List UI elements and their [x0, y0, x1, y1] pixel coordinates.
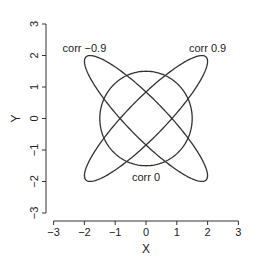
y-axis-title: Y	[9, 114, 23, 122]
x-axis: −3−2−10123	[47, 221, 241, 238]
y-tick-label: −2	[28, 175, 40, 188]
y-tick-label: 1	[28, 84, 40, 90]
x-tick-label: 2	[205, 226, 211, 238]
x-tick-label: −1	[109, 226, 122, 238]
curve-label: corr −0.9	[63, 42, 107, 54]
x-tick-label: −2	[78, 226, 91, 238]
ellipse-chart: −3−2−10123 −3−2−10123 X Y corr −0.9corr …	[0, 0, 260, 268]
y-tick-label: 3	[28, 21, 40, 27]
y-axis: −3−2−10123	[28, 21, 46, 219]
y-tick-label: −3	[28, 207, 40, 220]
curve-corr-0	[100, 71, 192, 166]
plot-area	[84, 56, 207, 182]
annotations: corr −0.9corr 0.9corr 0	[63, 42, 227, 183]
curve-label: corr 0.9	[189, 42, 226, 54]
x-tick-label: 3	[235, 226, 241, 238]
x-tick-label: 1	[174, 226, 180, 238]
x-tick-label: −3	[47, 226, 60, 238]
y-tick-label: −1	[28, 144, 40, 157]
y-tick-label: 2	[28, 52, 40, 58]
x-axis-title: X	[142, 242, 150, 256]
curve-corr-0-9	[84, 56, 207, 182]
curve-label: corr 0	[132, 171, 160, 183]
curve-corr-0-9	[84, 56, 207, 182]
y-tick-label: 0	[28, 115, 40, 121]
x-tick-label: 0	[143, 226, 149, 238]
